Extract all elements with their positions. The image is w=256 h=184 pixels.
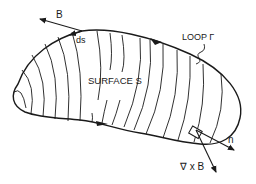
loop-gamma-boundary bbox=[13, 30, 240, 144]
stokes-theorem-diagram: B ds LOOP Γ SURFACE S n ∇ x B bbox=[0, 0, 256, 184]
ds-label: ds bbox=[76, 35, 86, 45]
b-vector-arrow bbox=[40, 19, 82, 31]
curl-b-label: ∇ x B bbox=[179, 161, 205, 172]
loop-label: LOOP Γ bbox=[182, 32, 214, 42]
surface-label: SURFACE S bbox=[88, 75, 142, 86]
b-vector-label: B bbox=[56, 9, 63, 20]
loop-direction-arrow-top bbox=[150, 38, 162, 45]
normal-label: n bbox=[228, 134, 234, 145]
